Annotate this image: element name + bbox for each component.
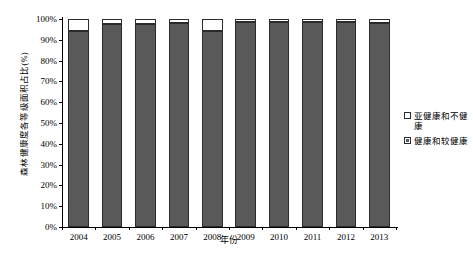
dark-square-icon <box>404 137 411 144</box>
y-axis-tick <box>59 81 62 82</box>
x-axis-tick <box>95 227 96 230</box>
plot-area: 0%10%20%30%40%50%60%70%80%90%100%2004200… <box>62 19 396 227</box>
bar-segment-subhealthy[interactable] <box>102 19 123 24</box>
bar-segment-healthy[interactable] <box>302 22 323 227</box>
chart-container: 森林健康度各等级面积占比(%) 0%10%20%30%40%50%60%70%8… <box>0 0 473 277</box>
bar-segment-subhealthy[interactable] <box>336 19 357 22</box>
x-axis-tick <box>363 227 364 230</box>
x-axis-tick <box>262 227 263 230</box>
legend-label: 亚健康和不健康 <box>414 111 470 131</box>
y-axis-tick <box>59 185 62 186</box>
x-axis-tick <box>62 227 63 230</box>
y-axis-tick-label: 70% <box>41 77 58 86</box>
bar-group[interactable] <box>302 19 323 227</box>
y-axis-tick-label: 0% <box>45 223 57 232</box>
y-axis-tick-label: 90% <box>41 35 58 44</box>
bar-segment-healthy[interactable] <box>68 31 89 227</box>
y-axis-tick-label: 50% <box>41 119 58 128</box>
y-axis-tick <box>59 144 62 145</box>
y-axis-tick <box>59 61 62 62</box>
y-axis-tick-label: 30% <box>41 160 58 169</box>
bar-group[interactable] <box>235 19 256 227</box>
bar-group[interactable] <box>135 19 156 227</box>
bar-segment-healthy[interactable] <box>202 31 223 227</box>
chart-legend: 亚健康和不健康健康和较健康 <box>404 111 473 151</box>
bar-segment-subhealthy[interactable] <box>135 19 156 24</box>
legend-entry[interactable]: 健康和较健康 <box>404 136 473 146</box>
bar-group[interactable] <box>202 19 223 227</box>
bar-segment-healthy[interactable] <box>169 23 190 227</box>
bar-group[interactable] <box>102 19 123 227</box>
x-axis-tick <box>229 227 230 230</box>
y-axis-tick <box>59 165 62 166</box>
y-axis-tick-label: 60% <box>41 98 58 107</box>
legend-label: 健康和较健康 <box>414 136 469 146</box>
x-axis-tick <box>196 227 197 230</box>
bar-segment-healthy[interactable] <box>235 22 256 227</box>
y-axis-tick <box>59 102 62 103</box>
x-axis-tick <box>129 227 130 230</box>
bar-group[interactable] <box>169 19 190 227</box>
y-axis-tick-label: 100% <box>36 15 57 24</box>
bar-segment-subhealthy[interactable] <box>302 19 323 22</box>
bar-group[interactable] <box>68 19 89 227</box>
bar-segment-healthy[interactable] <box>336 22 357 227</box>
y-axis-tick-label: 40% <box>41 139 58 148</box>
x-axis-tick <box>162 227 163 230</box>
x-axis-tick <box>396 227 397 230</box>
x-axis-tick <box>296 227 297 230</box>
bar-segment-healthy[interactable] <box>135 24 156 227</box>
bar-segment-subhealthy[interactable] <box>235 19 256 22</box>
bar-segment-healthy[interactable] <box>369 23 390 227</box>
y-axis-title: 森林健康度各等级面积占比(%) <box>16 0 32 228</box>
white-square-icon <box>404 112 411 119</box>
x-axis-title: 年份 <box>62 233 396 246</box>
bar-segment-subhealthy[interactable] <box>269 19 290 22</box>
y-axis-tick-label: 20% <box>41 181 58 190</box>
y-axis-tick-label: 10% <box>41 202 58 211</box>
y-axis-tick <box>59 19 62 20</box>
bar-segment-subhealthy[interactable] <box>202 19 223 31</box>
y-axis-tick-label: 80% <box>41 56 58 65</box>
bar-segment-healthy[interactable] <box>269 22 290 227</box>
bar-segment-healthy[interactable] <box>102 24 123 227</box>
bar-segment-subhealthy[interactable] <box>169 19 190 23</box>
bar-group[interactable] <box>336 19 357 227</box>
bar-segment-subhealthy[interactable] <box>68 19 89 31</box>
x-axis-tick <box>329 227 330 230</box>
bar-segment-subhealthy[interactable] <box>369 19 390 23</box>
bar-group[interactable] <box>269 19 290 227</box>
y-axis-tick <box>59 206 62 207</box>
legend-entry[interactable]: 亚健康和不健康 <box>404 111 473 131</box>
bar-group[interactable] <box>369 19 390 227</box>
y-axis-tick <box>59 123 62 124</box>
y-axis-tick <box>59 40 62 41</box>
